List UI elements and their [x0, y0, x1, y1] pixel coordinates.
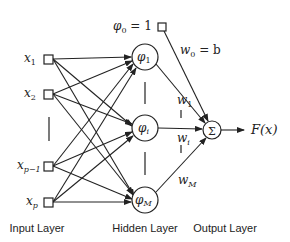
- hidden-layer-nodes: φ1 φi φM: [132, 44, 158, 213]
- bias-label: φ0 = 1: [113, 19, 152, 35]
- input-layer-label: Input Layer: [9, 222, 64, 234]
- input-node-x1: x1: [24, 51, 53, 67]
- weight-wM: wM: [178, 173, 197, 189]
- sigma-symbol: Σ: [208, 125, 216, 138]
- svg-text:xp−1: xp−1: [17, 158, 41, 174]
- hidden-node-phiM: φM: [132, 187, 158, 213]
- input-hidden-connections: [53, 57, 136, 202]
- input-node-xp: xp: [26, 194, 53, 210]
- svg-text:x2: x2: [24, 86, 36, 102]
- rbf-network-diagram: x1 x2 xp−1 xp φ1 φi φM φ0 =: [0, 0, 290, 242]
- weight-wi: wi: [177, 131, 190, 147]
- bias-node: φ0 = 1 w0 = b: [113, 19, 221, 59]
- svg-text:x1: x1: [24, 51, 36, 67]
- input-node-x2: x2: [24, 86, 53, 102]
- output-label: F(x): [250, 122, 278, 137]
- hidden-layer-label: Hidden Layer: [112, 222, 178, 234]
- input-layer-nodes: x1 x2 xp−1 xp: [17, 51, 53, 210]
- svg-text:xp: xp: [26, 194, 38, 210]
- input-node-xp-1: xp−1: [17, 158, 53, 174]
- output-layer-label: Output Layer: [193, 222, 257, 234]
- hidden-node-phi1: φ1: [132, 44, 158, 70]
- hidden-node-phii: φi: [132, 115, 158, 141]
- weight-labels: w1 wi wM: [177, 93, 197, 189]
- bias-weight-label: w0 = b: [180, 43, 221, 59]
- weight-w1: w1: [177, 93, 192, 109]
- layer-labels: Input Layer Hidden Layer Output Layer: [9, 222, 257, 234]
